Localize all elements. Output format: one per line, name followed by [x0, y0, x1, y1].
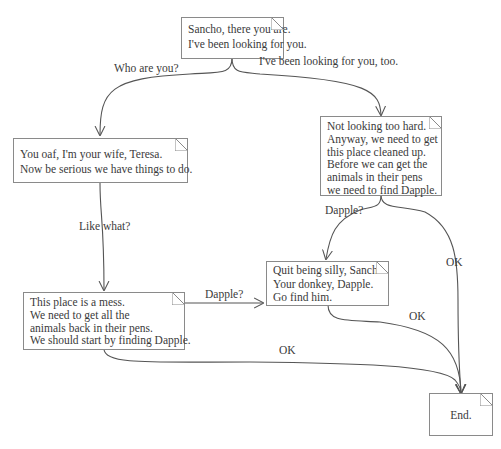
node-text-line: End.: [436, 408, 486, 423]
node-text-line: Go find him.: [273, 291, 382, 305]
edge-label-ok-silly: OK: [409, 310, 426, 323]
node-text-line: Anyway, we need to get: [327, 133, 435, 146]
edge-wife-to-mess: [100, 183, 104, 290]
folded-corner-icon: [480, 393, 493, 406]
edge-label-like-what: Like what?: [79, 220, 130, 233]
node-text-line: Sancho, there you are.: [188, 22, 277, 37]
node-not-hard: Not looking too hard. Anyway, we need to…: [320, 116, 442, 196]
node-mess: This place is a mess. We need to get all…: [23, 292, 185, 350]
folded-corner-icon: [429, 116, 442, 129]
edge-not-hard-to-end: [381, 195, 461, 393]
edge-layer: [0, 0, 501, 449]
node-start: Sancho, there you are. I've been looking…: [181, 17, 284, 59]
node-text-line: I've been looking for you.: [188, 37, 277, 52]
node-text-line: animals in their pens: [327, 171, 435, 184]
edge-label-dapple-right: Dapple?: [325, 204, 363, 217]
node-wife: You oaf, I'm your wife, Teresa. Now be s…: [13, 138, 188, 183]
folded-corner-icon: [172, 292, 185, 305]
folded-corner-icon: [376, 261, 389, 274]
node-end: End.: [429, 393, 493, 436]
folded-corner-icon: [175, 138, 188, 151]
edge-silly-to-end: [328, 305, 461, 393]
node-silly: Quit being silly, Sancho. Your donkey, D…: [266, 261, 389, 306]
folded-corner-icon: [271, 17, 284, 30]
node-text-line: animals back in their pens.: [30, 322, 178, 335]
edge-label-dapple-left: Dapple?: [205, 288, 243, 301]
node-text-line: Your donkey, Dapple.: [273, 278, 382, 292]
node-text-line: We need to get all the: [30, 309, 178, 322]
node-text-line: You oaf, I'm your wife, Teresa.: [20, 147, 181, 162]
edge-label-ok-right: OK: [446, 256, 463, 269]
edge-label-who-are-you: Who are you?: [114, 62, 179, 75]
node-text-line: we need to find Dapple.: [327, 184, 435, 197]
edge-label-looking-too: I've been looking for you, too.: [259, 55, 398, 68]
node-text-line: We should start by finding Dapple.: [30, 334, 178, 347]
node-text-line: Not looking too hard.: [327, 120, 435, 133]
edge-label-ok-bottom: OK: [279, 344, 296, 357]
node-text-line: Now be serious we have things to do.: [20, 162, 181, 177]
node-text-line: Quit being silly, Sancho.: [273, 264, 382, 278]
node-text-line: This place is a mess.: [30, 296, 178, 309]
node-text-line: Before we can get the: [327, 158, 435, 171]
node-text-line: this place cleaned up.: [327, 146, 435, 159]
